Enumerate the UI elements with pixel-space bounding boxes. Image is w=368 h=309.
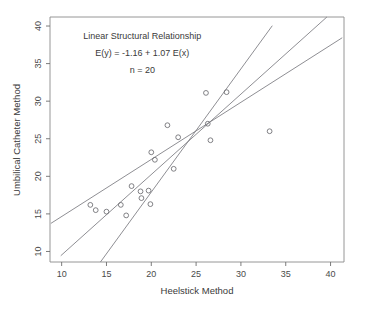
plot-frame bbox=[50, 17, 344, 262]
y-tick-label: 15 bbox=[33, 209, 43, 219]
data-point-marker bbox=[138, 189, 143, 194]
x-axis: 10152025303540 bbox=[57, 262, 336, 279]
x-tick-label: 15 bbox=[101, 269, 111, 279]
y-tick-label: 35 bbox=[33, 59, 43, 69]
x-tick-label: 35 bbox=[281, 269, 291, 279]
y-axis: 10152025303540 bbox=[33, 21, 50, 256]
y-tick-label: 40 bbox=[33, 21, 43, 31]
data-point-marker bbox=[204, 91, 209, 96]
x-tick-label: 20 bbox=[146, 269, 156, 279]
data-point-marker bbox=[129, 184, 134, 189]
plot-annotation-line-1: Linear Structural Relationship bbox=[83, 31, 201, 41]
upper-bound-line bbox=[100, 26, 272, 262]
x-tick-label: 30 bbox=[236, 269, 246, 279]
y-tick-label: 20 bbox=[33, 171, 43, 181]
data-point-marker bbox=[165, 123, 170, 128]
data-points bbox=[88, 90, 272, 218]
data-point-marker bbox=[118, 202, 123, 207]
data-point-marker bbox=[93, 208, 98, 213]
x-axis-title: Heelstick Method bbox=[161, 285, 234, 296]
plot-annotation-line-2: E(y) = -1.16 + 1.07 E(x) bbox=[95, 48, 189, 58]
data-point-marker bbox=[146, 188, 151, 193]
plot-annotations: Linear Structural RelationshipE(y) = -1.… bbox=[83, 31, 201, 76]
data-point-marker bbox=[171, 166, 176, 171]
data-point-marker bbox=[208, 138, 213, 143]
plot-annotation-line-3: n = 20 bbox=[130, 65, 155, 75]
data-point-marker bbox=[104, 209, 109, 214]
plot-canvas: 10152025303540 10152025303540 Linear Str… bbox=[0, 0, 368, 309]
scatter-plot-figure: 10152025303540 10152025303540 Linear Str… bbox=[0, 0, 368, 309]
lower-bound-line bbox=[51, 38, 342, 224]
data-point-marker bbox=[88, 202, 93, 207]
x-tick-label: 40 bbox=[326, 269, 336, 279]
y-tick-label: 25 bbox=[33, 134, 43, 144]
y-tick-label: 10 bbox=[33, 246, 43, 256]
data-point-marker bbox=[124, 213, 129, 218]
data-point-marker bbox=[224, 90, 229, 95]
y-axis-title: Umbilical Catheter Method bbox=[11, 84, 22, 196]
y-tick-label: 30 bbox=[33, 96, 43, 106]
data-point-marker bbox=[149, 150, 154, 155]
data-point-marker bbox=[148, 202, 153, 207]
data-point-marker bbox=[139, 196, 144, 201]
data-point-marker bbox=[176, 135, 181, 140]
data-point-marker bbox=[267, 129, 272, 134]
x-tick-label: 25 bbox=[191, 269, 201, 279]
x-tick-label: 10 bbox=[57, 269, 67, 279]
data-point-marker bbox=[152, 157, 157, 162]
